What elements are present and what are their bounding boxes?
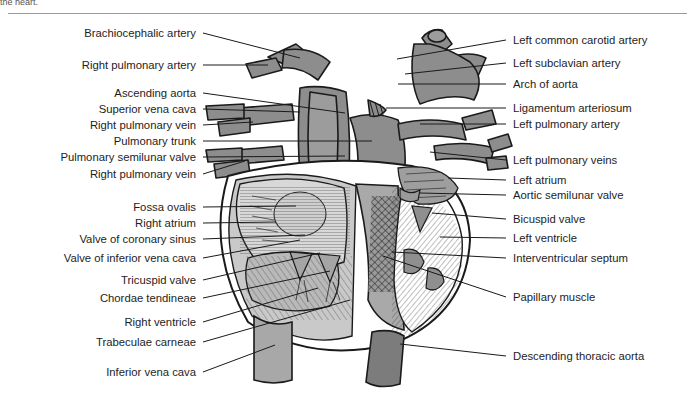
leader-left-atrium (448, 178, 506, 180)
label-ligamentum-arteriosum: Ligamentum arteriosum (513, 102, 632, 114)
label-valve-of-inferior-vena-cava: Valve of inferior vena cava (0, 252, 196, 264)
rpa-branch-2 (218, 118, 250, 136)
label-valve-of-coronary-sinus: Valve of coronary sinus (0, 233, 196, 245)
label-right-pulmonary-vein: Right pulmonary vein (0, 119, 196, 131)
label-pulmonary-semilunar-valve: Pulmonary semilunar valve (0, 151, 196, 163)
lpv-branch-a (488, 134, 512, 152)
label-papillary-muscle: Papillary muscle (513, 291, 595, 303)
leader-brachiocephalic-artery (203, 33, 300, 58)
brachiocephalic-trunk (282, 49, 330, 80)
label-left-common-carotid-artery: Left common carotid artery (513, 34, 647, 46)
label-tricuspid-valve: Tricuspid valve (0, 274, 196, 286)
label-trabeculae-carneae: Trabeculae carneae (0, 336, 196, 348)
label-left-pulmonary-veins: Left pulmonary veins (513, 154, 617, 166)
label-right-pulmonary-artery: Right pulmonary artery (0, 59, 196, 71)
label-interventricular-septum: Interventricular septum (513, 252, 628, 264)
label-left-ventricle: Left ventricle (513, 232, 577, 244)
label-aortic-semilunar-valve: Aortic semilunar valve (513, 189, 624, 201)
label-left-pulmonary-artery: Left pulmonary artery (513, 118, 620, 130)
descending-thoracic-aorta-shape (366, 331, 404, 387)
carotid-lumen (428, 30, 446, 42)
label-descending-thoracic-aorta: Descending thoracic aorta (513, 350, 644, 362)
label-superior-vena-cava: Superior vena cava (0, 103, 196, 115)
label-fossa-ovalis: Fossa ovalis (0, 201, 196, 213)
rpv-branch (206, 148, 242, 162)
label-arch-of-aorta: Arch of aorta (513, 78, 578, 90)
label-brachiocephalic-artery: Brachiocephalic artery (0, 27, 196, 39)
label-bicuspid-valve: Bicuspid valve (513, 213, 585, 225)
label-chordae-tendineae: Chordae tendineae (0, 292, 196, 304)
label-right-ventricle: Right ventricle (0, 316, 196, 328)
label-inferior-vena-cava: Inferior vena cava (0, 366, 196, 378)
label-left-subclavian-artery: Left subclavian artery (513, 57, 620, 69)
figure-page: the heart. (0, 0, 695, 396)
label-right-pulmonary-vein-2: Right pulmonary vein (0, 168, 196, 180)
aortic-arch-shape (412, 44, 479, 104)
label-ascending-aorta: Ascending aorta (0, 87, 196, 99)
lpa-branch (462, 110, 496, 130)
label-pulmonary-trunk: Pulmonary trunk (0, 135, 196, 147)
label-right-atrium: Right atrium (0, 217, 196, 229)
rpa-branch (206, 104, 244, 120)
heart-body (220, 161, 472, 387)
label-left-atrium: Left atrium (513, 174, 566, 186)
brachiocephalic-branch-b (246, 58, 282, 78)
left-pulmonary-artery-shape-2 (398, 120, 466, 140)
leader-descending-thoracic-aorta (400, 344, 506, 356)
